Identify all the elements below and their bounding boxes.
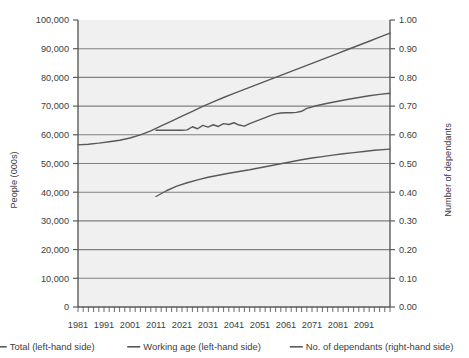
right-axis-tick-label: 0.70 bbox=[399, 101, 417, 111]
x-tick-label: 2031 bbox=[198, 320, 218, 330]
left-axis: 100,00090,00080,00070,00060,00050,00040,… bbox=[36, 15, 78, 312]
x-tick-label: 2091 bbox=[354, 320, 374, 330]
legend-label-0: Total (left-hand side) bbox=[10, 341, 95, 352]
left-axis-tick-label: 70,000 bbox=[41, 101, 69, 111]
left-axis-tick-label: 0 bbox=[64, 302, 69, 312]
x-tick-labels: 1981199120012011202120312041205120612071… bbox=[68, 320, 374, 330]
legend-label-2: No. of dependants (right-hand side) bbox=[306, 341, 454, 352]
right-axis-tick-label: 0.20 bbox=[399, 245, 417, 255]
x-tick-label: 2041 bbox=[224, 320, 244, 330]
left-axis-tick-label: 30,000 bbox=[41, 216, 69, 226]
x-tick-label: 2081 bbox=[328, 320, 348, 330]
left-axis-tick-label: 90,000 bbox=[41, 44, 69, 54]
right-axis-tick-label: 0.50 bbox=[399, 159, 417, 169]
left-axis-title: People (000s) bbox=[9, 151, 19, 208]
right-axis-tick-label: 0.80 bbox=[399, 73, 417, 83]
x-tick-label: 2021 bbox=[172, 320, 192, 330]
population-projection-chart: 100,00090,00080,00070,00060,00050,00040,… bbox=[0, 0, 469, 358]
x-minor-ticks bbox=[78, 307, 390, 312]
x-tick-label: 2071 bbox=[302, 320, 322, 330]
right-axis-title: Number of dependants bbox=[443, 123, 453, 217]
left-axis-tick-label: 40,000 bbox=[41, 188, 69, 198]
right-axis-tick-label: 0.60 bbox=[399, 130, 417, 140]
right-axis-tick-label: 0.90 bbox=[399, 44, 417, 54]
left-axis-tick-label: 60,000 bbox=[41, 130, 69, 140]
left-axis-tick-label: 20,000 bbox=[41, 245, 69, 255]
right-axis-tick-label: 0.30 bbox=[399, 216, 417, 226]
x-tick-label: 1991 bbox=[94, 320, 114, 330]
left-axis-tick-label: 100,000 bbox=[36, 15, 69, 25]
legend-label-1: Working age (left-hand side) bbox=[143, 341, 261, 352]
x-tick-label: 2011 bbox=[146, 320, 166, 330]
right-axis: 1.000.900.800.700.600.500.400.300.200.10… bbox=[390, 15, 417, 312]
x-tick-label: 1981 bbox=[68, 320, 88, 330]
right-axis-tick-label: 0.40 bbox=[399, 188, 417, 198]
chart-legend: Total (left-hand side)Working age (left-… bbox=[0, 341, 453, 352]
left-axis-tick-label: 10,000 bbox=[41, 274, 69, 284]
x-tick-label: 2001 bbox=[120, 320, 140, 330]
x-tick-label: 2061 bbox=[276, 320, 296, 330]
right-axis-tick-label: 0.00 bbox=[399, 302, 417, 312]
left-axis-tick-label: 80,000 bbox=[41, 73, 69, 83]
right-axis-tick-label: 0.10 bbox=[399, 274, 417, 284]
right-axis-tick-label: 1.00 bbox=[399, 15, 417, 25]
x-tick-label: 2051 bbox=[250, 320, 270, 330]
left-axis-tick-label: 50,000 bbox=[41, 159, 69, 169]
chart-container: 100,00090,00080,00070,00060,00050,00040,… bbox=[0, 0, 469, 358]
